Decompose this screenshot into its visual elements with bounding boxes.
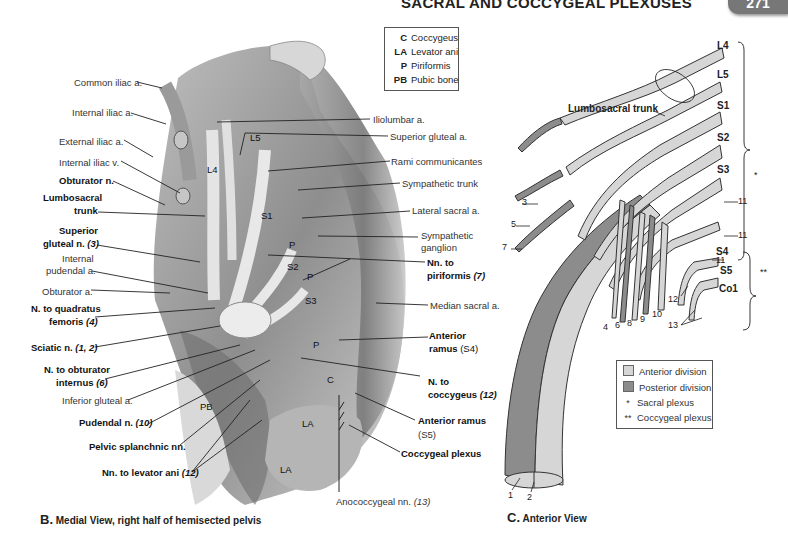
root-l4: L4	[717, 40, 729, 51]
number-4: 4	[603, 322, 608, 332]
root-l5: L5	[717, 69, 729, 80]
legend-anterior-division: Anterior division	[623, 365, 707, 377]
number-10: 10	[652, 309, 662, 319]
root-s1: S1	[717, 100, 729, 111]
number-13: 13	[668, 320, 678, 330]
legend-sacral-plexus: *Sacral plexus	[623, 397, 694, 408]
root-s3: S3	[717, 164, 729, 175]
number-3: 3	[522, 197, 527, 207]
root-co1: Co1	[719, 283, 738, 294]
number-9: 9	[640, 314, 645, 324]
label-lumbosacral-trunk-c: Lumbosacral trunk	[568, 103, 658, 114]
double-star-icon: **	[623, 413, 633, 423]
anterior-swatch	[623, 365, 634, 376]
number-1: 1	[508, 490, 513, 500]
bracket-sacral-star: *	[754, 170, 758, 180]
legend-coccygeal-plexus: **Coccygeal plexus	[623, 412, 711, 423]
figure-c-caption: C. Anterior View	[507, 510, 587, 525]
root-s2: S2	[717, 132, 729, 143]
number-11a: 11	[738, 196, 747, 206]
figure-c-diagram	[0, 0, 788, 539]
figure-c-legend: Anterior division Posterior division *Sa…	[616, 360, 713, 429]
posterior-swatch	[623, 381, 634, 392]
number-7: 7	[502, 242, 507, 252]
number-8: 8	[627, 318, 632, 328]
root-s5: S5	[720, 265, 732, 276]
number-5: 5	[511, 219, 516, 229]
star-icon: *	[623, 398, 633, 408]
number-2: 2	[527, 492, 532, 502]
number-6: 6	[615, 320, 620, 330]
legend-posterior-division: Posterior division	[623, 381, 711, 393]
number-11c: 11	[716, 255, 725, 265]
bracket-coccygeal-stars: **	[760, 267, 767, 277]
number-12: 12	[668, 294, 678, 304]
number-11b: 11	[738, 230, 747, 240]
